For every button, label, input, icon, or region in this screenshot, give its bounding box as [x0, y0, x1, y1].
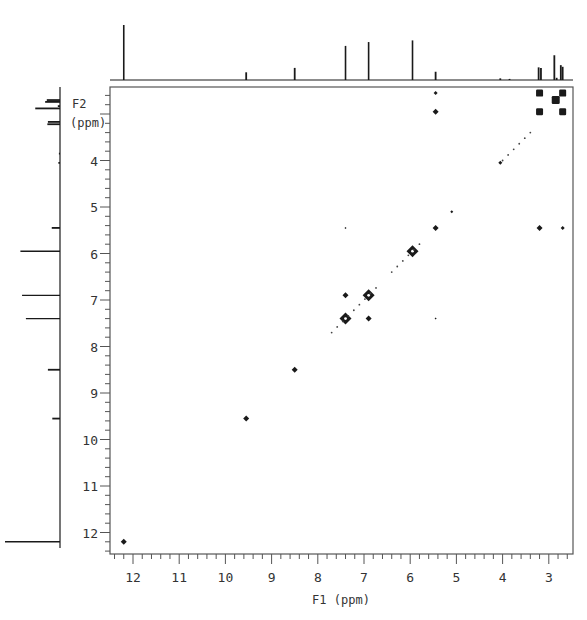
f2-axis: 456789101112	[82, 95, 110, 551]
diagonal-trace	[402, 260, 404, 262]
diagonal-trace	[358, 304, 360, 306]
spectrum-peak	[559, 108, 566, 115]
diagonal-trace	[529, 132, 531, 134]
y-tick-label: 8	[90, 340, 98, 355]
x-tick-label: 6	[406, 570, 414, 585]
f2-projection-spectrum	[5, 87, 60, 548]
diagonal-trace	[391, 271, 393, 273]
diagonal-trace	[419, 243, 421, 245]
y-tick-label: 5	[90, 200, 98, 215]
cosy-spectrum-chart: 1211109876543 456789101112 F1 (ppm) F2 (…	[0, 0, 587, 620]
diagonal-trace	[407, 254, 409, 256]
x-tick-label: 5	[452, 570, 460, 585]
x-axis-title: F1 (ppm)	[312, 593, 370, 607]
spectrum-peak	[552, 96, 560, 104]
spectrum-peak	[536, 90, 543, 97]
diagonal-trace	[513, 148, 515, 150]
diagonal-trace	[524, 137, 526, 139]
spectrum-peak	[536, 108, 543, 115]
diagonal-trace	[331, 332, 333, 334]
diagonal-trace	[502, 160, 504, 162]
diagonal-trace	[370, 293, 372, 295]
y-tick-label: 6	[90, 247, 98, 262]
x-tick-label: 12	[125, 570, 141, 585]
diagonal-trace	[342, 320, 344, 322]
diagonal-trace	[507, 154, 509, 156]
y-tick-label: 9	[90, 386, 98, 401]
y-tick-label: 4	[90, 154, 98, 169]
spectrum-peak	[559, 90, 566, 97]
x-tick-label: 3	[545, 570, 553, 585]
y-axis-title-line2: (ppm)	[70, 116, 106, 130]
f1-projection-spectrum	[110, 25, 573, 80]
diagonal-trace	[518, 143, 520, 145]
diagonal-trace	[336, 326, 338, 328]
x-tick-label: 8	[314, 570, 322, 585]
diagonal-trace	[375, 287, 377, 289]
diagonal-trace	[364, 298, 366, 300]
y-tick-label: 7	[90, 293, 98, 308]
x-tick-label: 11	[171, 570, 187, 585]
y-tick-label: 11	[82, 479, 98, 494]
x-tick-label: 9	[268, 570, 276, 585]
y-tick-label: 10	[82, 433, 98, 448]
x-tick-label: 10	[218, 570, 234, 585]
f1-axis: 1211109876543	[115, 554, 568, 585]
y-axis-title-line1: F2	[72, 97, 86, 111]
diagonal-trace	[347, 315, 349, 317]
x-tick-label: 7	[360, 570, 368, 585]
diagonal-trace	[353, 309, 355, 311]
y-tick-label: 12	[82, 526, 98, 541]
x-tick-label: 4	[499, 570, 507, 585]
diagonal-trace	[396, 266, 398, 268]
diagonal-trace	[413, 249, 415, 251]
